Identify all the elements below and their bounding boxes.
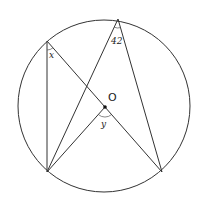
label-center-o: O	[108, 91, 117, 104]
label-angle-x: x	[49, 50, 54, 60]
center-point	[103, 105, 107, 109]
diagram-canvas: O 42 x y	[0, 0, 202, 208]
chord-top-bottomright	[118, 19, 162, 172]
circle-geometry-diagram: O 42 x y	[0, 0, 202, 208]
label-angle-y: y	[100, 119, 107, 129]
angle-arc-42	[114, 27, 120, 28]
segment-bottomleft-center	[47, 107, 105, 172]
angle-arc-y	[98, 115, 111, 118]
label-angle-42: 42	[110, 36, 123, 46]
